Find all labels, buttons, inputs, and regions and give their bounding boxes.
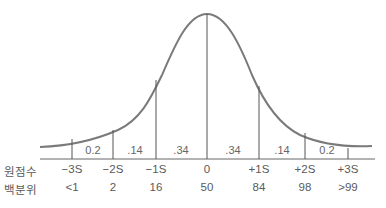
percentile-label: <1 xyxy=(65,181,78,193)
percentile-label: 84 xyxy=(253,181,266,193)
segment-proportion: .34 xyxy=(225,144,240,156)
segment-proportion: 0.2 xyxy=(85,144,100,156)
percentile-label: 2 xyxy=(110,181,116,193)
segment-proportion: .34 xyxy=(173,144,188,156)
percentile-label: >99 xyxy=(338,181,358,193)
segment-proportion: .14 xyxy=(127,144,142,156)
sd-label: −1S xyxy=(146,163,167,175)
percentile-label: 16 xyxy=(150,181,163,193)
sd-label: 0 xyxy=(204,163,210,175)
sd-label: +3S xyxy=(338,163,359,175)
percentile-label: 98 xyxy=(299,181,312,193)
segment-proportion: 0.2 xyxy=(319,144,334,156)
percentile-row-label: 백분위 xyxy=(4,181,37,197)
sd-label: −3S xyxy=(62,163,83,175)
raw-score-row-label: 원점수 xyxy=(4,163,37,179)
sd-label: +1S xyxy=(249,163,270,175)
normal-curve-diagram xyxy=(0,0,386,208)
segment-proportion: .14 xyxy=(274,144,289,156)
sd-label: +2S xyxy=(295,163,316,175)
percentile-label: 50 xyxy=(201,181,214,193)
bell-curve xyxy=(40,14,372,147)
sd-label: −2S xyxy=(103,163,124,175)
